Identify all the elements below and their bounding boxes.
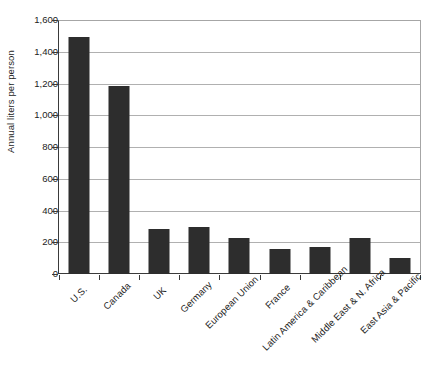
bar-slot	[340, 21, 380, 274]
bar-slot	[139, 21, 179, 274]
bar-slot	[219, 21, 259, 274]
bar-slot	[99, 21, 139, 274]
bar	[109, 86, 130, 274]
bar	[389, 258, 410, 274]
y-tick-label: 800	[10, 141, 58, 152]
bar	[69, 37, 90, 274]
x-tick-label: Germany	[178, 279, 214, 315]
y-tick-label: 1,200	[10, 78, 58, 89]
bar	[349, 238, 370, 274]
x-tick-label: France	[263, 281, 292, 310]
y-tick-label: 400	[10, 205, 58, 216]
bar	[269, 249, 290, 274]
x-tick-label: U.S.	[68, 284, 89, 305]
x-tick-label: European Union	[203, 273, 260, 330]
y-axis: 02004006008001,0001,2001,4001,600	[0, 20, 58, 274]
bar	[309, 247, 330, 274]
chart-screenshot: · · · · · · · · Annual liters per person…	[0, 0, 434, 389]
bar-slot	[300, 21, 340, 274]
x-tick-label: Canada	[101, 280, 133, 312]
bar-slot	[59, 21, 99, 274]
x-axis-labels: U.S.CanadaUKGermanyEuropean UnionFranceL…	[0, 274, 434, 389]
clipped-title-remnant: · · · · · · · ·	[60, 0, 380, 3]
y-tick-label: 1,000	[10, 109, 58, 120]
y-tick-label: 600	[10, 173, 58, 184]
bar	[189, 227, 210, 274]
x-tick-label: Middle East & N. Africa	[309, 267, 387, 345]
bar-slot	[380, 21, 420, 274]
y-tick-label: 200	[10, 236, 58, 247]
x-tick-label: UK	[151, 285, 168, 302]
bar	[149, 229, 170, 274]
bar	[229, 238, 250, 274]
y-tick-label: 1,600	[10, 14, 58, 25]
bar-series	[59, 21, 420, 274]
bar-slot	[179, 21, 219, 274]
y-tick-label: 1,400	[10, 46, 58, 57]
bar-slot	[260, 21, 300, 274]
